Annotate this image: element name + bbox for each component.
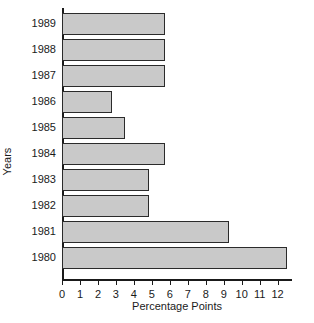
bar-chart: Years 1989198819871986198519841983198219… [0, 0, 314, 323]
bar-1981 [62, 221, 229, 243]
bar-1985 [62, 117, 125, 139]
y-axis-tick-label-1983: 1983 [2, 171, 56, 187]
bar-row: 1983 [62, 167, 292, 193]
y-axis-tick-label-1980: 1980 [2, 249, 56, 265]
y-axis-tick-label-1985: 1985 [2, 119, 56, 135]
bar-row: 1982 [62, 193, 292, 219]
y-axis-tick-label-1988: 1988 [2, 41, 56, 57]
x-axis-tick-5 [152, 281, 153, 285]
bar-row: 1980 [62, 245, 292, 271]
x-axis-tick-12 [278, 281, 279, 285]
bar-1983 [62, 169, 149, 191]
x-axis-line [62, 279, 292, 281]
x-axis-tick-9 [224, 281, 225, 285]
y-axis-tick-label-1986: 1986 [2, 93, 56, 109]
x-axis-tick-11 [260, 281, 261, 285]
x-axis-tick-7 [188, 281, 189, 285]
plot-area: 1989198819871986198519841983198219811980… [62, 8, 292, 281]
x-axis-tick-8 [206, 281, 207, 285]
y-axis-tick-label-1984: 1984 [2, 145, 56, 161]
y-axis-tick-label-1987: 1987 [2, 67, 56, 83]
x-axis-tick-4 [134, 281, 135, 285]
bar-row: 1981 [62, 219, 292, 245]
y-axis-tick-label-1981: 1981 [2, 223, 56, 239]
bar-1982 [62, 195, 149, 217]
x-axis-tick-10 [242, 281, 243, 285]
x-axis-tick-3 [116, 281, 117, 285]
bar-1984 [62, 143, 165, 165]
x-axis-title: Percentage Points [62, 299, 292, 313]
bar-1988 [62, 39, 165, 61]
x-axis-tick-2 [98, 281, 99, 285]
y-axis-tick-label-1982: 1982 [2, 197, 56, 213]
bar-1987 [62, 65, 165, 87]
bar-row: 1986 [62, 89, 292, 115]
x-axis-tick-1 [80, 281, 81, 285]
y-axis-tick-label-1989: 1989 [2, 15, 56, 31]
x-axis-tick-6 [170, 281, 171, 285]
bar-1986 [62, 91, 112, 113]
bar-row: 1987 [62, 63, 292, 89]
bar-1989 [62, 13, 165, 35]
bar-row: 1989 [62, 11, 292, 37]
bar-1980 [62, 247, 287, 269]
bar-row: 1985 [62, 115, 292, 141]
x-axis-tick-0 [62, 281, 63, 285]
bar-row: 1984 [62, 141, 292, 167]
bar-row: 1988 [62, 37, 292, 63]
